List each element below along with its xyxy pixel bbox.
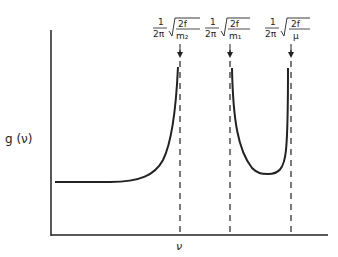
svg-text:m₂: m₂ — [176, 31, 189, 41]
svg-text:1: 1 — [270, 17, 276, 27]
marker-label-m2: 1 2π 2f m₂ — [153, 17, 200, 41]
svg-text:1: 1 — [158, 17, 164, 27]
arrow-icon-m1 — [227, 44, 233, 58]
svg-text:2f: 2f — [230, 19, 240, 29]
y-axis-label: g (ν) — [5, 132, 33, 146]
marker-label-m1: 1 2π 2f m₁ — [205, 17, 250, 41]
acoustic-branch-curve — [55, 67, 178, 182]
x-axis-label: ν — [176, 240, 182, 253]
svg-text:m₁: m₁ — [229, 31, 242, 41]
svg-text:1: 1 — [210, 17, 216, 27]
svg-text:2π: 2π — [153, 29, 165, 39]
density-of-states-diagram: g (ν) ν 1 2π 2f m₂ 1 2π 2f m₁ 1 2π 2f μ — [0, 0, 338, 257]
svg-text:2f: 2f — [291, 19, 301, 29]
svg-text:2π: 2π — [205, 29, 217, 39]
svg-text:2π: 2π — [265, 29, 277, 39]
svg-text:μ: μ — [293, 31, 299, 41]
arrow-icon-mu — [288, 44, 294, 58]
svg-text:2f: 2f — [178, 19, 188, 29]
arrow-icon-m2 — [177, 44, 183, 58]
marker-label-mu: 1 2π 2f μ — [265, 17, 310, 41]
optical-branch-curve — [232, 68, 288, 174]
